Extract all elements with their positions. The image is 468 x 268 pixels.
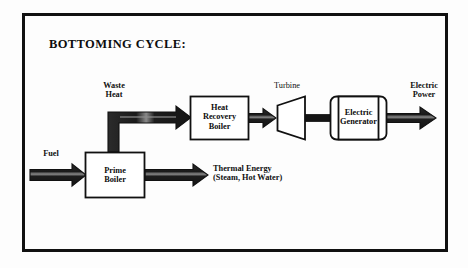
electric-generator-label: Electric Generator (331, 108, 386, 127)
hrb-label-line3: Boiler (190, 122, 249, 131)
bottoming-cycle-diagram: BOTTOMING CYCLE: Prime Boiler Heat Recov… (0, 0, 468, 268)
electric-power-label: Electric Power (399, 82, 449, 100)
prime-boiler-label-line2: Boiler (85, 175, 145, 184)
thermal-energy-label-line2: (Steam, Hot Water) (213, 174, 321, 183)
waste-heat-label-line2: Heat (92, 91, 136, 100)
hrb-label-line2: Recovery (190, 112, 249, 121)
generator-label-line2: Generator (331, 117, 386, 126)
heat-recovery-boiler-label: Heat Recovery Boiler (190, 103, 249, 131)
electric-power-label-line2: Power (399, 91, 449, 100)
prime-boiler-label-line1: Prime (85, 166, 145, 175)
waste-heat-label: Waste Heat (92, 82, 136, 100)
turbine-generator-shaft (305, 115, 331, 122)
prime-boiler-label: Prime Boiler (85, 166, 145, 185)
generator-label-line1: Electric (331, 108, 386, 117)
turbine-label: Turbine (262, 82, 312, 91)
thermal-energy-label: Thermal Energy (Steam, Hot Water) (213, 165, 321, 183)
fuel-label: Fuel (30, 150, 72, 159)
hrb-label-line1: Heat (190, 103, 249, 112)
page-title: BOTTOMING CYCLE: (49, 37, 186, 52)
